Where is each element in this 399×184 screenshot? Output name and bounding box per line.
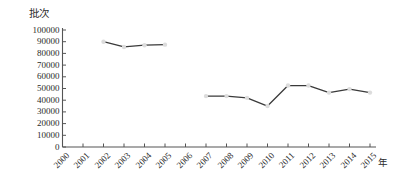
chart-axes bbox=[63, 28, 377, 147]
data-point-marker bbox=[101, 40, 105, 44]
data-point-marker bbox=[368, 90, 372, 94]
data-point-marker bbox=[245, 96, 249, 100]
data-point-marker bbox=[347, 87, 351, 91]
data-point-marker bbox=[265, 104, 269, 108]
y-axis-tick-label: 30000 bbox=[37, 107, 60, 116]
y-axis-tick-label: 50000 bbox=[37, 84, 60, 93]
y-axis-tick-label: 0 bbox=[55, 143, 60, 152]
data-point-marker bbox=[122, 45, 126, 49]
data-point-markers bbox=[101, 40, 372, 109]
data-point-marker bbox=[327, 90, 331, 94]
data-point-marker bbox=[286, 83, 290, 87]
data-series-line bbox=[104, 42, 371, 106]
y-axis-tick-label: 20000 bbox=[37, 119, 60, 128]
data-point-marker bbox=[204, 94, 208, 98]
y-axis-tick-label: 40000 bbox=[37, 96, 60, 105]
data-point-marker bbox=[163, 42, 167, 46]
chart-tick-marks bbox=[63, 30, 371, 147]
y-axis-tick-label: 90000 bbox=[37, 37, 60, 46]
y-axis-tick-label: 70000 bbox=[37, 61, 60, 70]
y-axis-tick-label: 10000 bbox=[37, 131, 60, 140]
y-axis-tick-label: 100000 bbox=[33, 26, 60, 35]
line-chart: 批次 年 01000020000300004000050000600007000… bbox=[0, 0, 399, 184]
y-axis-tick-label: 80000 bbox=[37, 49, 60, 58]
data-point-marker bbox=[224, 94, 228, 98]
y-axis-tick-label: 60000 bbox=[37, 72, 60, 81]
data-point-marker bbox=[306, 83, 310, 87]
data-point-marker bbox=[142, 43, 146, 47]
